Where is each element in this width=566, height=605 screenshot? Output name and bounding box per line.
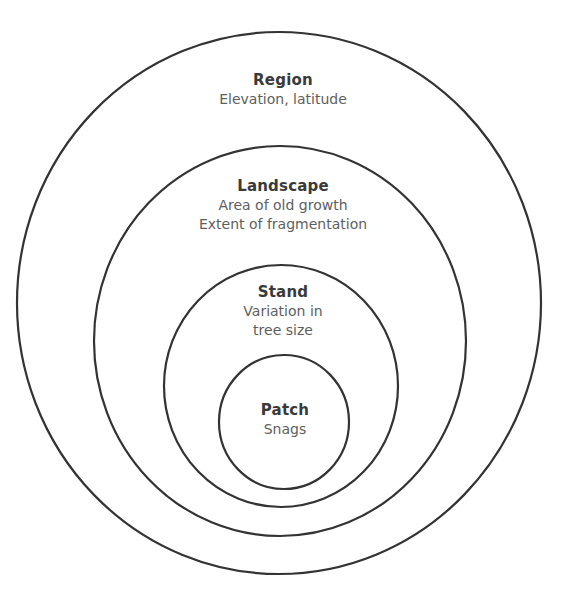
patch-title: Patch (2, 400, 566, 420)
region-label: Region Elevation, latitude (0, 70, 566, 109)
patch-description: Snags (2, 420, 566, 439)
region-description: Elevation, latitude (0, 90, 566, 109)
stand-label: Stand Variation in tree size (0, 282, 566, 340)
patch-label: Patch Snags (2, 400, 566, 439)
landscape-description: Area of old growth Extent of fragmentati… (0, 196, 566, 234)
region-title: Region (0, 70, 566, 90)
stand-title: Stand (0, 282, 566, 302)
landscape-label: Landscape Area of old growth Extent of f… (0, 176, 566, 234)
nested-scales-diagram: Region Elevation, latitude Landscape Are… (0, 0, 566, 605)
landscape-title: Landscape (0, 176, 566, 196)
stand-description: Variation in tree size (0, 302, 566, 340)
